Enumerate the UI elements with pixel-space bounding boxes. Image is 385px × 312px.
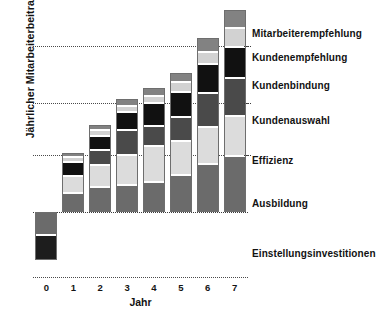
segment-kundenbindung[interactable] — [116, 112, 138, 130]
x-tick-3: 3 — [116, 282, 138, 293]
x-tick-6: 6 — [197, 282, 219, 293]
segment-kundenauswahl[interactable] — [170, 117, 192, 142]
segment-mitarbeiterempfehlung[interactable] — [116, 99, 138, 106]
segment-kundenbindung[interactable] — [143, 103, 165, 125]
segment-kundenbindung[interactable] — [170, 92, 192, 117]
x-tick-4: 4 — [143, 282, 165, 293]
segment-ausbildung[interactable] — [62, 193, 84, 212]
legend-label-kundenempfehlung: Kundenempfehlung — [252, 52, 347, 63]
x-axis-title: Jahr — [33, 296, 248, 308]
segment-ausbildung[interactable] — [197, 164, 219, 212]
bar-year-4[interactable] — [143, 14, 165, 272]
segment-ausbildung[interactable] — [170, 175, 192, 212]
segment-einstellungsinvestitionen-upper[interactable] — [35, 212, 57, 235]
segment-kundenbindung[interactable] — [224, 47, 246, 77]
segment-mitarbeiterempfehlung[interactable] — [143, 88, 165, 96]
bar-year-2[interactable] — [89, 14, 111, 272]
segment-kundenempfehlung[interactable] — [224, 28, 246, 47]
segment-effizienz[interactable] — [197, 127, 219, 164]
segment-ausbildung[interactable] — [116, 185, 138, 212]
bar-year-1[interactable] — [62, 14, 84, 272]
legend-label-kundenbindung: Kundenbindung — [252, 80, 330, 91]
segment-kundenbindung[interactable] — [89, 136, 111, 151]
segment-mitarbeiterempfehlung[interactable] — [89, 125, 111, 131]
segment-mitarbeiterempfehlung[interactable] — [197, 38, 219, 51]
segment-effizienz[interactable] — [224, 116, 246, 156]
segment-effizienz[interactable] — [62, 176, 84, 193]
x-tick-0: 0 — [35, 282, 57, 293]
stacked-bar-chart: Jährlicher Mitarbeiterbeitrag 01234567 J… — [0, 0, 385, 312]
bar-year-7[interactable] — [224, 14, 246, 272]
legend-label-kundenauswahl: Kundenauswahl — [252, 115, 330, 126]
segment-kundenempfehlung[interactable] — [62, 157, 84, 161]
segment-kundenempfehlung[interactable] — [197, 52, 219, 64]
legend-label-einstellungsinvestitionen: Einstellungsinvestitionen — [252, 248, 376, 259]
segment-kundenauswahl[interactable] — [197, 93, 219, 127]
segment-ausbildung[interactable] — [143, 182, 165, 212]
segment-effizienz[interactable] — [170, 141, 192, 175]
segment-mitarbeiterempfehlung[interactable] — [62, 153, 84, 157]
segment-mitarbeiterempfehlung[interactable] — [224, 10, 246, 28]
legend-tick-kundenauswahl — [244, 103, 251, 104]
segment-kundenbindung[interactable] — [62, 162, 84, 177]
segment-kundenempfehlung[interactable] — [170, 82, 192, 92]
x-tick-1: 1 — [62, 282, 84, 293]
bar-year-3[interactable] — [116, 14, 138, 272]
bar-year-5[interactable] — [170, 14, 192, 272]
segment-kundenauswahl[interactable] — [224, 78, 246, 116]
segment-effizienz[interactable] — [116, 155, 138, 185]
legend-label-effizienz: Effizienz — [252, 155, 293, 166]
segment-kundenauswahl[interactable] — [89, 150, 111, 165]
segment-ausbildung[interactable] — [89, 187, 111, 212]
x-tick-2: 2 — [89, 282, 111, 293]
x-axis-line — [33, 277, 248, 278]
segment-kundenempfehlung[interactable] — [89, 130, 111, 136]
plot-area — [33, 14, 248, 272]
segment-ausbildung[interactable] — [224, 156, 246, 212]
segment-effizienz[interactable] — [143, 146, 165, 182]
segment-kundenauswahl[interactable] — [143, 126, 165, 146]
bar-year-0[interactable] — [35, 14, 57, 272]
legend-label-mitarbeiterempfehlung: Mitarbeiterempfehlung — [252, 28, 362, 39]
x-tick-5: 5 — [170, 282, 192, 293]
segment-kundenbindung[interactable] — [197, 64, 219, 93]
segment-kundenempfehlung[interactable] — [143, 96, 165, 104]
bar-year-6[interactable] — [197, 14, 219, 272]
x-tick-7: 7 — [224, 282, 246, 293]
legend-tick-mitarbeiterempfehlung — [244, 46, 251, 47]
segment-einstellungsinvestitionen-lower[interactable] — [35, 235, 57, 260]
segment-effizienz[interactable] — [89, 165, 111, 187]
segment-kundenempfehlung[interactable] — [116, 106, 138, 113]
segment-mitarbeiterempfehlung[interactable] — [170, 73, 192, 82]
legend-label-ausbildung: Ausbildung — [252, 198, 308, 209]
legend-tick-effizienz — [244, 155, 251, 156]
segment-kundenauswahl[interactable] — [116, 130, 138, 155]
